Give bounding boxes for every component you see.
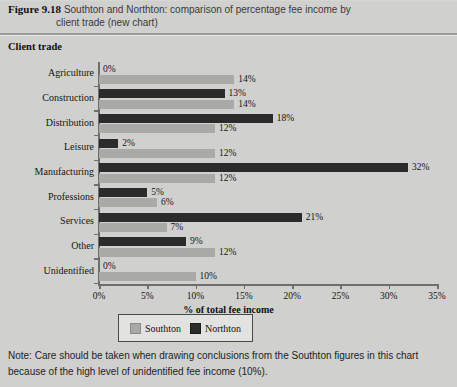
y-axis-label: Construction (0, 92, 94, 103)
legend-label-northton: Northton (205, 323, 241, 334)
bar-value-label: 12% (219, 148, 236, 158)
bar-northton (99, 188, 147, 197)
bar-value-label: 0% (103, 64, 116, 74)
x-axis-tick-label: 20% (283, 291, 300, 301)
bar-northton (99, 114, 273, 123)
bar-northton (99, 139, 118, 148)
chart-category-group: Services21%7% (99, 210, 437, 235)
bar-value-label: 32% (412, 162, 429, 172)
figure-number: Figure 9.18 (8, 3, 61, 15)
y-axis-title: Client trade (8, 41, 62, 52)
legend-item-northton: Northton (190, 323, 241, 334)
y-axis-label: Manufacturing (0, 166, 94, 177)
legend-swatch-northton-icon (190, 323, 201, 334)
plot-area: Agriculture0%14%Construction13%14%Distri… (99, 62, 437, 284)
bar-value-label: 12% (219, 123, 236, 133)
bar-southton (99, 124, 215, 133)
bar-value-label: 14% (238, 74, 255, 84)
bar-value-label: 7% (171, 222, 184, 232)
bar-southton (99, 100, 234, 109)
figure-caption-line2: client trade (new chart) (56, 16, 449, 30)
y-axis-label: Professions (0, 191, 94, 202)
x-axis-tick (292, 284, 294, 289)
x-axis-tick (389, 284, 391, 289)
chart-legend: Southton Northton (118, 314, 253, 342)
figure-title-line: Figure 9.18 Southton and Northton: compa… (8, 2, 449, 17)
y-axis-label: Leisure (0, 141, 94, 152)
bar-northton (99, 237, 186, 246)
bar-southton (99, 198, 157, 207)
figure-page: Figure 9.18 Southton and Northton: compa… (0, 0, 457, 387)
x-axis-tick (340, 284, 342, 289)
bar-value-label: 10% (200, 271, 217, 281)
y-axis-label: Unidentified (0, 265, 94, 276)
bar-northton (99, 89, 225, 98)
bar-northton (99, 213, 302, 222)
bar-value-label: 6% (161, 197, 174, 207)
x-axis-tick-label: 0% (93, 291, 106, 301)
figure-note: Note: Care should be taken when drawing … (8, 348, 449, 380)
bar-southton (99, 149, 215, 158)
bar-value-label: 5% (151, 187, 164, 197)
bar-chart: Agriculture0%14%Construction13%14%Distri… (0, 58, 457, 304)
chart-category-group: Unidentified0%10% (99, 259, 437, 284)
x-axis-tick-label: 35% (428, 291, 445, 301)
legend-swatch-southton-icon (130, 323, 141, 334)
bar-value-label: 0% (103, 261, 116, 271)
chart-category-group: Agriculture0%14% (99, 62, 437, 87)
chart-category-group: Professions5%6% (99, 185, 437, 210)
chart-category-group: Leisure2%12% (99, 136, 437, 161)
bar-southton (99, 272, 196, 281)
x-axis-tick (99, 284, 101, 289)
x-axis-tick (244, 284, 246, 289)
x-axis-tick-label: 30% (380, 291, 397, 301)
bar-northton (99, 163, 408, 172)
legend-label-southton: Southton (145, 323, 181, 334)
bar-southton (99, 75, 234, 84)
y-axis-label: Distribution (0, 117, 94, 128)
x-axis-tick-label: 10% (187, 291, 204, 301)
x-axis-tick (147, 284, 149, 289)
x-axis-tick (437, 284, 439, 289)
bar-value-label: 2% (122, 138, 135, 148)
header-divider (0, 33, 457, 35)
chart-category-group: Construction13%14% (99, 87, 437, 112)
legend-item-southton: Southton (130, 323, 181, 334)
x-axis-tick-label: 25% (332, 291, 349, 301)
bar-value-label: 14% (238, 99, 255, 109)
chart-category-group: Distribution18%12% (99, 111, 437, 136)
bar-southton (99, 223, 167, 232)
figure-header: Figure 9.18 Southton and Northton: compa… (0, 0, 457, 32)
y-axis-label: Services (0, 215, 94, 226)
chart-category-group: Other9%12% (99, 235, 437, 260)
y-axis-label: Agriculture (0, 67, 94, 78)
bar-value-label: 13% (229, 88, 246, 98)
bar-value-label: 18% (277, 113, 294, 123)
x-axis-tick (196, 284, 198, 289)
bar-value-label: 12% (219, 173, 236, 183)
x-axis-tick-label: 15% (235, 291, 252, 301)
bar-value-label: 9% (190, 236, 203, 246)
y-axis-label: Other (0, 240, 94, 251)
x-axis-line (98, 284, 437, 286)
chart-category-group: Manufacturing32%12% (99, 161, 437, 186)
bar-value-label: 12% (219, 247, 236, 257)
figure-caption-line1: Southton and Northton: comparison of per… (64, 4, 351, 15)
bar-southton (99, 174, 215, 183)
bar-southton (99, 248, 215, 257)
x-axis-tick-label: 5% (141, 291, 154, 301)
bar-value-label: 21% (306, 212, 323, 222)
